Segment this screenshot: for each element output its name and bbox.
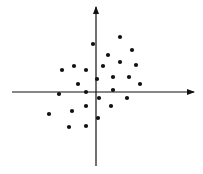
data-point [130, 48, 134, 52]
data-point [91, 42, 95, 46]
data-point [47, 112, 51, 116]
data-point [70, 109, 74, 113]
data-point [97, 96, 101, 100]
axes [12, 7, 194, 166]
data-point [138, 82, 142, 86]
data-point [67, 125, 71, 129]
scatter-chart [0, 0, 203, 174]
data-point [109, 104, 113, 108]
scatter-plot-canvas [0, 0, 203, 174]
data-point [84, 68, 88, 72]
data-point [95, 77, 99, 81]
data-point [118, 60, 122, 64]
data-point [76, 82, 80, 86]
data-point [57, 92, 61, 96]
data-point [134, 63, 138, 67]
data-point [127, 75, 131, 79]
data-point [84, 90, 88, 94]
data-point [111, 75, 115, 79]
data-point [72, 64, 76, 68]
data-point [118, 35, 122, 39]
data-point [96, 116, 100, 120]
data-point [84, 104, 88, 108]
data-point [60, 68, 64, 72]
data-point [111, 88, 115, 92]
data-points [47, 35, 142, 129]
data-point [84, 124, 88, 128]
data-point [106, 53, 110, 57]
data-point [101, 64, 105, 68]
data-point [125, 96, 129, 100]
